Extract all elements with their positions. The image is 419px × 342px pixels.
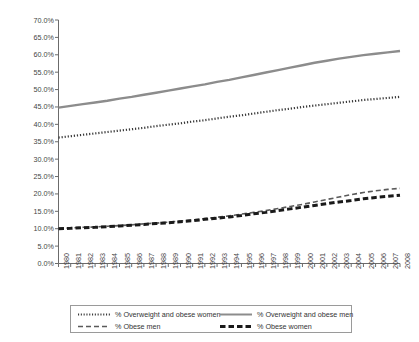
- legend-swatch-icon: [77, 322, 111, 331]
- x-axis-tick-label: 2006: [379, 253, 388, 269]
- legend-swatch-icon: [77, 310, 111, 319]
- x-axis-tick-label: 2002: [330, 253, 339, 269]
- chart-legend: % Overweight and obese women% Overweight…: [70, 305, 352, 333]
- series-line-1: [59, 51, 401, 108]
- legend-item-label: % Obese men: [115, 322, 161, 331]
- y-axis-tick-label: 60.0%: [10, 50, 54, 59]
- series-line-3: [59, 195, 401, 228]
- legend-item-label: % Obese women: [257, 322, 312, 331]
- x-axis-tick-label: 1980: [62, 253, 71, 269]
- x-axis-tick-label: 1999: [293, 253, 302, 269]
- legend-swatch-icon: [219, 310, 253, 319]
- x-axis-tick-label: 1986: [135, 253, 144, 269]
- x-axis-tick-label: 1982: [86, 253, 95, 269]
- x-axis-tick-label: 2007: [391, 253, 400, 269]
- y-axis-tick-label: 35.0%: [10, 137, 54, 146]
- x-axis-tick-label: 2005: [367, 253, 376, 269]
- x-axis-tick-label: 1988: [159, 253, 168, 269]
- x-axis-tick-label: 2008: [403, 253, 412, 269]
- legend-swatch-icon: [219, 322, 253, 331]
- y-axis-tick-label: 0.0%: [10, 259, 54, 268]
- legend-item[interactable]: % Overweight and obese women: [77, 309, 220, 320]
- y-axis-tick-label: 45.0%: [10, 102, 54, 111]
- y-axis-tick-label: 25.0%: [10, 172, 54, 181]
- y-axis-tick-label: 40.0%: [10, 120, 54, 129]
- y-axis-tick-label: 15.0%: [10, 207, 54, 216]
- series-line-0: [59, 97, 401, 138]
- x-axis-tick-label: 1997: [269, 253, 278, 269]
- y-axis-tick-label: 50.0%: [10, 85, 54, 94]
- legend-item[interactable]: % Obese men: [77, 321, 161, 332]
- series-line-2: [59, 188, 401, 228]
- x-axis-tick-label: 2003: [342, 253, 351, 269]
- legend-item[interactable]: % Overweight and obese men: [219, 309, 353, 320]
- x-axis-tick-label: 1987: [147, 253, 156, 269]
- x-axis-tick-label: 1983: [98, 253, 107, 269]
- x-axis-tick-label: 1995: [245, 253, 254, 269]
- y-axis-ticks: [55, 20, 59, 264]
- series-lines: [59, 51, 401, 229]
- x-axis-tick-label: 1993: [220, 253, 229, 269]
- line-chart-plot: [0, 0, 419, 342]
- legend-item-label: % Overweight and obese men: [257, 310, 353, 319]
- x-axis-tick-label: 1996: [257, 253, 266, 269]
- x-axis-tick-label: 1991: [196, 253, 205, 269]
- x-axis-tick-label: 2000: [306, 253, 315, 269]
- y-axis-tick-label: 30.0%: [10, 155, 54, 164]
- x-axis-tick-label: 1989: [171, 253, 180, 269]
- y-axis-tick-label: 65.0%: [10, 33, 54, 42]
- x-axis-tick-label: 1992: [208, 253, 217, 269]
- legend-item-label: % Overweight and obese women: [115, 310, 220, 319]
- x-axis-tick-label: 1998: [281, 253, 290, 269]
- legend-item[interactable]: % Obese women: [219, 321, 312, 332]
- y-axis-tick-label: 10.0%: [10, 224, 54, 233]
- x-axis-tick-label: 1981: [74, 253, 83, 269]
- y-axis-tick-label: 5.0%: [10, 242, 54, 251]
- x-axis-tick-label: 2004: [354, 253, 363, 269]
- chart-container: 0.0%5.0%10.0%15.0%20.0%25.0%30.0%35.0%40…: [0, 0, 419, 342]
- x-axis-tick-label: 1984: [110, 253, 119, 269]
- y-axis-tick-label: 20.0%: [10, 189, 54, 198]
- x-axis-tick-label: 1985: [123, 253, 132, 269]
- x-axis-tick-label: 1990: [184, 253, 193, 269]
- x-axis-tick-label: 2001: [318, 253, 327, 269]
- y-axis-tick-label: 55.0%: [10, 68, 54, 77]
- y-axis-tick-label: 70.0%: [10, 16, 54, 25]
- x-axis-tick-label: 1994: [232, 253, 241, 269]
